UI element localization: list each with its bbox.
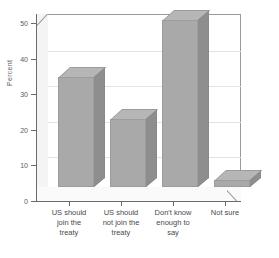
x-axis-line	[36, 201, 241, 202]
bar-us-should-join	[58, 77, 94, 187]
y-tick-label-10: 10	[0, 162, 28, 169]
bar-side-face	[146, 110, 157, 187]
y-tick-mark-10	[31, 165, 36, 166]
bar-chart: Percent 50 40 30 20 10 0 US should join …	[0, 0, 279, 258]
y-tick-label-30: 30	[0, 91, 28, 98]
bar-side-face	[94, 68, 105, 187]
y-tick-mark-50	[31, 23, 36, 24]
bar-not-sure	[214, 180, 250, 187]
bar-front-face	[110, 119, 146, 187]
plot-bevel-bottom-right	[227, 187, 241, 202]
bar-us-should-not-join	[110, 119, 146, 187]
x-axis-label-3: Not sure	[190, 208, 260, 218]
plot-floor	[36, 187, 241, 202]
y-tick-label-0: 0	[0, 198, 28, 205]
y-tick-label-40: 40	[0, 56, 28, 63]
x-tick-mark-0	[69, 202, 70, 206]
bar-side-face	[198, 11, 209, 187]
bar-front-face	[58, 77, 94, 187]
y-tick-label-50: 50	[0, 20, 28, 27]
x-tick-mark-2	[173, 202, 174, 206]
bar-dont-know-enough	[162, 20, 198, 187]
y-axis-title: Percent	[6, 60, 14, 86]
y-tick-mark-40	[31, 59, 36, 60]
x-tick-mark-3	[225, 202, 226, 206]
y-axis-line	[36, 14, 37, 202]
y-tick-label-20: 20	[0, 127, 28, 134]
gridline-40	[48, 51, 241, 52]
y-tick-mark-0	[31, 201, 36, 202]
plot-bevel-top-left	[36, 14, 49, 28]
bar-front-face	[214, 180, 250, 187]
plot-area	[36, 14, 241, 202]
x-tick-mark-1	[121, 202, 122, 206]
bar-front-face	[162, 20, 198, 187]
y-tick-mark-20	[31, 130, 36, 131]
y-tick-mark-30	[31, 94, 36, 95]
